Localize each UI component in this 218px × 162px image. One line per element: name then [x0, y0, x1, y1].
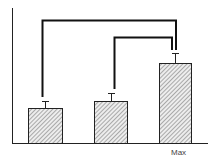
bar-1 — [29, 109, 63, 144]
significance-bracket-1-3 — [43, 21, 177, 98]
bar-2 — [95, 102, 128, 144]
x-tick-label-max: Max — [171, 148, 186, 157]
bar-chart — [0, 0, 218, 162]
error-bars — [42, 54, 179, 109]
bar-3 — [160, 64, 192, 144]
